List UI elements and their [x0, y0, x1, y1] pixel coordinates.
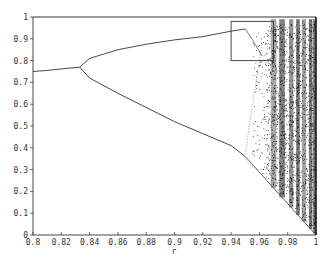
y-tick-label: 0.3: [14, 166, 29, 175]
y-tick-label: 0.7: [14, 78, 29, 87]
chaotic-region: [245, 19, 317, 235]
upper-branch-curve: [80, 29, 246, 67]
y-tick-label: 0.8: [14, 57, 29, 66]
y-tick-label: 0.9: [14, 35, 29, 44]
x-tick-label: 0.86: [108, 238, 127, 247]
y-tick-label: 0.2: [14, 187, 29, 196]
fixed-point-curve: [33, 67, 80, 71]
x-tick-label: 0.96: [250, 238, 269, 247]
x-tick-label: 0.94: [221, 238, 240, 247]
y-tick-label: 0.4: [14, 144, 29, 153]
x-tick-label: 0.92: [193, 238, 212, 247]
x-tick-label: 0.84: [80, 238, 99, 247]
x-tick-label: 0.98: [278, 238, 297, 247]
y-tick-label: 0.6: [14, 100, 29, 109]
y-tick-label: 0.1: [14, 209, 29, 218]
x-tick-label: 0.82: [52, 238, 71, 247]
y-tick-label: 1: [23, 13, 28, 22]
x-axis-label: r: [172, 247, 177, 256]
bifurcation-chart: 0.80.820.840.860.880.90.920.940.960.9810…: [0, 0, 331, 263]
x-tick-label: 1: [314, 238, 319, 247]
y-tick-label: 0: [23, 231, 28, 240]
x-tick-label: 0.88: [137, 238, 156, 247]
y-tick-label: 0.5: [14, 122, 29, 131]
x-tick-label: 0.9: [167, 238, 182, 247]
lower-branch-curve: [80, 67, 246, 156]
